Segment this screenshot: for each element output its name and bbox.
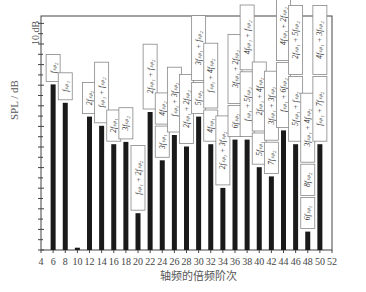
svg-text:4fₛₚ₁ + fₛₚ₂: 4fₛₚ₁ + fₛₚ₂ <box>243 20 252 54</box>
x-tick-label: 6 <box>51 256 56 267</box>
harmonic-annotation: fₛₚ₁ + 7fₛₚ₂ <box>313 76 327 141</box>
svg-text:5fₛₚ₂: 5fₛₚ₂ <box>194 90 203 105</box>
svg-text:fₛₚ₁ + 4fₛₚ₂: fₛₚ₁ + 4fₛₚ₂ <box>206 58 215 92</box>
bar <box>136 213 141 250</box>
svg-text:fₛₚ₂: fₛₚ₂ <box>49 62 58 73</box>
bar <box>99 126 104 250</box>
x-tick-label: 12 <box>85 256 95 267</box>
harmonic-annotation: 4fₛₚ₁ + 3fₛₚ₂ <box>313 5 327 74</box>
x-tick-label: 44 <box>279 256 289 267</box>
harmonic-annotation: fₛₚ₁ + 4fₛₚ₂ <box>204 43 218 108</box>
x-tick-label: 52 <box>327 256 337 267</box>
svg-text:4fₛₚ₁: 4fₛₚ₁ <box>206 118 215 133</box>
harmonic-annotation: 3fₛₚ₂ <box>119 108 133 139</box>
bar <box>160 160 165 250</box>
svg-text:3fₛₚ₁: 3fₛₚ₁ <box>158 134 167 150</box>
svg-text:2fₛₚ₁ + fₛₚ₂: 2fₛₚ₁ + fₛₚ₂ <box>146 59 155 93</box>
x-tick-label: 36 <box>230 256 240 267</box>
svg-text:fₛₚ₁: fₛₚ₁ <box>61 81 70 92</box>
x-tick-label: 24 <box>157 256 167 267</box>
bar <box>87 117 92 250</box>
svg-text:fₛₚ₁ + 2fₛₚ₂: fₛₚ₁ + 2fₛₚ₂ <box>134 160 143 194</box>
bar <box>269 176 274 250</box>
svg-text:2fₛₚ₂: 2fₛₚ₂ <box>85 90 94 105</box>
svg-text:fₛₚ₁ + 5fₛₚ₂: fₛₚ₁ + 5fₛₚ₂ <box>243 87 252 121</box>
x-axis-label: 轴频的倍频阶次 <box>160 267 237 283</box>
bar <box>51 84 56 250</box>
bar <box>208 144 213 250</box>
x-tick-label: 30 <box>194 256 204 267</box>
bar <box>148 112 153 250</box>
bar <box>220 188 225 250</box>
harmonic-annotation: 6fₛₚ₁ <box>301 197 315 228</box>
bar <box>245 140 250 250</box>
harmonic-annotation: 8fₛₚ₂ <box>301 164 315 195</box>
x-tick-label: 50 <box>315 256 325 267</box>
svg-text:4fₛₚ₁ + 2fₛₚ₂: 4fₛₚ₁ + 2fₛₚ₂ <box>279 7 288 45</box>
svg-text:3fₛₚ₁ + fₛₚ₂: 3fₛₚ₁ + fₛₚ₂ <box>194 31 203 66</box>
svg-text:2fₛₚ₁ + 3fₛₚ₂: 2fₛₚ₁ + 3fₛₚ₂ <box>218 131 227 169</box>
svg-text:3fₛₚ₁ + 3fₛₚ₂: 3fₛₚ₁ + 3fₛₚ₂ <box>267 86 276 125</box>
svg-text:7fₛₚ₂: 7fₛₚ₂ <box>267 150 276 165</box>
bar <box>111 144 116 250</box>
svg-text:6fₛₚ₁: 6fₛₚ₁ <box>303 205 312 220</box>
svg-text:2fₛₚ₁ + 2fₛₚ₂: 2fₛₚ₁ + 2fₛₚ₂ <box>182 90 191 128</box>
x-tick-label: 26 <box>169 256 179 267</box>
scale-annotation: 10 dB <box>30 21 41 45</box>
harmonic-annotation: fₛₚ₁ + 2fₛₚ₂ <box>131 145 145 210</box>
svg-text:fₛₚ₁ + fₛₚ₂: fₛₚ₁ + fₛₚ₂ <box>97 77 106 108</box>
bar <box>123 142 128 250</box>
svg-text:8fₛₚ₂: 8fₛₚ₂ <box>303 172 312 187</box>
harmonic-annotation: 4fₛₚ₁ + fₛₚ₂ <box>240 5 254 70</box>
bar <box>184 147 189 251</box>
svg-text:2fₛₚ₁ + 4fₛₚ₂: 2fₛₚ₁ + 4fₛₚ₂ <box>255 77 264 115</box>
x-tick-label: 38 <box>242 256 252 267</box>
bar <box>233 140 238 250</box>
svg-text:fₛₚ₁ + 6fₛₚ₂: fₛₚ₁ + 6fₛₚ₂ <box>279 78 288 112</box>
x-tick-label: 8 <box>63 256 68 267</box>
x-tick-label: 4 <box>39 256 44 267</box>
svg-text:2fₛₚ₁: 2fₛₚ₁ <box>109 118 118 133</box>
svg-text:5fₛₚ₁ + fₛₚ₂: 5fₛₚ₁ + fₛₚ₂ <box>291 91 300 125</box>
x-tick-label: 16 <box>109 256 119 267</box>
x-tick-label: 28 <box>182 256 192 267</box>
svg-text:3fₛₚ₁ + 4fₛₚ₂: 3fₛₚ₁ + 4fₛₚ₂ <box>303 108 312 147</box>
svg-text:fₛₚ₁ + 7fₛₚ₂: fₛₚ₁ + 7fₛₚ₂ <box>315 91 324 125</box>
svg-text:4fₛₚ₁ + 3fₛₚ₂: 4fₛₚ₁ + 3fₛₚ₂ <box>315 21 324 59</box>
x-tick-label: 14 <box>97 256 107 267</box>
y-axis-label: SPL / dB <box>8 80 20 120</box>
bar <box>172 135 177 250</box>
x-tick-label: 10 <box>72 256 82 267</box>
harmonic-annotation: 7fₛₚ₂ <box>264 142 278 173</box>
harmonic-annotation: fₛₚ₁ <box>58 73 72 100</box>
x-tick-label: 20 <box>133 256 143 267</box>
svg-text:3fₛₚ₁ + 2fₛₚ₂: 3fₛₚ₁ + 2fₛₚ₂ <box>231 50 240 89</box>
harmonic-annotation: 2fₛₚ₁ + 5fₛₚ₂ <box>289 5 303 74</box>
x-tick-label: 48 <box>303 256 313 267</box>
svg-text:fₛₚ₁ + 3fₛₚ₂: fₛₚ₁ + 3fₛₚ₂ <box>170 82 179 116</box>
bar <box>317 144 322 250</box>
x-tick-label: 34 <box>218 256 228 267</box>
bar-chart: 4681012141618202224262830323436384042444… <box>0 0 366 292</box>
svg-text:2fₛₚ₁ + 5fₛₚ₂: 2fₛₚ₁ + 5fₛₚ₂ <box>291 21 300 59</box>
bar <box>257 167 262 250</box>
x-tick-label: 22 <box>145 256 155 267</box>
x-tick-label: 42 <box>266 256 276 267</box>
bar <box>63 103 68 250</box>
x-tick-label: 32 <box>206 256 216 267</box>
bar <box>281 130 286 250</box>
svg-text:5fₛₚ₁: 5fₛₚ₁ <box>255 141 264 156</box>
bar <box>75 248 80 250</box>
x-tick-label: 40 <box>254 256 264 267</box>
svg-text:4fₛₚ₂: 4fₛₚ₂ <box>158 101 167 116</box>
bar <box>293 144 298 250</box>
bar <box>196 117 201 250</box>
x-tick-label: 18 <box>121 256 131 267</box>
x-tick-label: 46 <box>291 256 301 267</box>
svg-text:6fₛₚ₂: 6fₛₚ₂ <box>231 113 240 128</box>
bar <box>305 232 310 250</box>
svg-text:3fₛₚ₂: 3fₛₚ₂ <box>121 116 130 132</box>
